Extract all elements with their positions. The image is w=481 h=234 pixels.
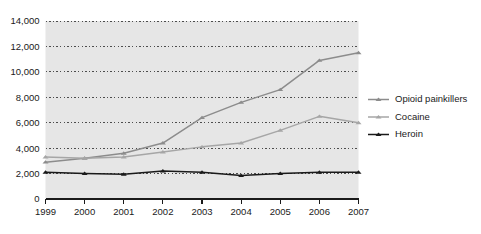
y-axis-tick-labels: 02,0004,0006,0008,00010,00012,00014,000 [10,15,39,204]
y-axis-tick-label: 4,000 [16,143,40,154]
line-chart: 02,0004,0006,0008,00010,00012,00014,000 … [0,0,481,234]
y-axis-tick-label: 0 [34,193,39,204]
y-axis-tick-label: 8,000 [16,92,40,103]
y-axis-tick-label: 12,000 [10,41,39,52]
y-axis-tick-label: 10,000 [10,66,39,77]
x-axis-tick-label: 2001 [113,206,134,217]
x-axis-tick-label: 2004 [231,206,252,217]
chart-canvas: 02,0004,0006,0008,00010,00012,00014,000 … [0,0,481,234]
x-axis-ticks [85,199,320,204]
x-axis-tick-label: 2007 [348,206,369,217]
x-axis-tick-label: 2002 [152,206,173,217]
y-axis-tick-label: 6,000 [16,117,40,128]
x-axis-tick-labels: 199920002001200220032004200520062007 [35,206,369,217]
legend: Opioid painkillersCocaineHeroin [368,93,468,139]
x-axis-tick-label: 1999 [35,206,56,217]
x-axis-tick-label: 2006 [309,206,330,217]
legend-label: Opioid painkillers [395,93,468,104]
x-axis-tick-label: 2000 [74,206,95,217]
legend-label: Cocaine [395,111,430,122]
y-axis-tick-label: 14,000 [10,15,39,26]
x-axis-tick-label: 2005 [270,206,291,217]
x-axis-tick-label: 2003 [191,206,212,217]
y-axis-tick-label: 2,000 [16,168,40,179]
legend-label: Heroin [395,128,423,139]
